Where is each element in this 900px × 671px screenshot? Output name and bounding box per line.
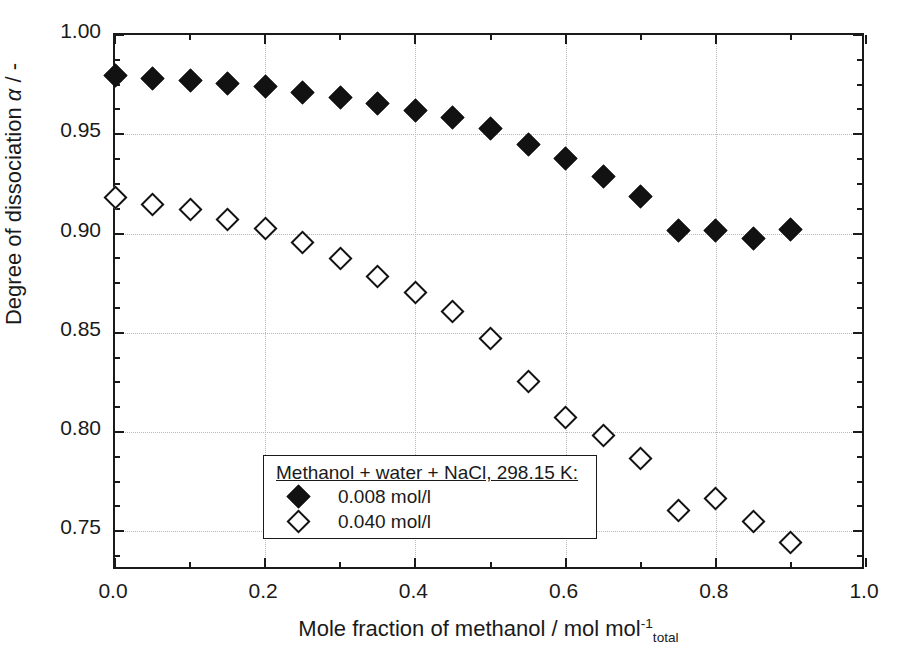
tick-mark: [857, 59, 862, 61]
data-point: [328, 246, 352, 270]
data-point: [178, 198, 202, 222]
tick-mark: [115, 332, 124, 334]
data-point: [478, 116, 502, 140]
tick-mark: [865, 558, 867, 567]
y-axis-title-suffix: / -: [1, 63, 26, 89]
data-point: [141, 67, 165, 91]
data-point: [366, 264, 390, 288]
gridline-horizontal: [115, 432, 862, 433]
tick-mark: [414, 35, 416, 44]
tick-mark: [857, 307, 862, 309]
tick-mark: [115, 555, 120, 557]
tick-mark: [857, 381, 862, 383]
data-point: [704, 487, 728, 511]
tick-mark: [715, 35, 717, 44]
tick-mark: [189, 35, 191, 40]
tick-mark: [115, 282, 120, 284]
tick-mark: [115, 530, 124, 532]
tick-mark: [115, 431, 124, 433]
tick-mark: [339, 562, 341, 567]
tick-mark: [853, 332, 862, 334]
tick-mark: [115, 406, 120, 408]
chart-figure: Methanol + water + NaCl, 298.15 K: 0.008…: [0, 0, 900, 671]
data-point: [366, 91, 390, 115]
tick-mark: [857, 555, 862, 557]
tick-mark: [865, 35, 867, 44]
legend-label-0: 0.008 mol/l: [320, 486, 431, 508]
x-axis-title-subscript: total: [653, 630, 679, 645]
data-point: [554, 146, 578, 170]
data-point: [666, 219, 690, 243]
data-point: [629, 185, 653, 209]
tick-mark: [857, 481, 862, 483]
tick-mark: [715, 558, 717, 567]
data-point: [779, 218, 803, 242]
tick-mark: [857, 208, 862, 210]
tick-mark: [264, 558, 266, 567]
legend-label-1: 0.040 mol/l: [320, 511, 431, 533]
tick-mark: [115, 357, 120, 359]
tick-mark: [114, 558, 116, 567]
x-axis-title: Mole fraction of methanol / mol mol-1tot…: [113, 616, 864, 645]
tick-mark: [853, 34, 862, 36]
tick-mark: [640, 562, 642, 567]
tick-mark: [115, 108, 120, 110]
tick-mark: [115, 59, 120, 61]
y-axis-title: Degree of dissociation α / -: [1, 0, 27, 404]
x-tick-label: 0.0: [73, 579, 153, 603]
legend-item-1: 0.040 mol/l: [276, 510, 596, 535]
data-point: [741, 509, 765, 533]
data-point: [216, 208, 240, 232]
tick-mark: [490, 562, 492, 567]
tick-mark: [640, 35, 642, 40]
data-point: [516, 132, 540, 156]
x-tick-label: 1.0: [824, 579, 900, 603]
tick-mark: [853, 431, 862, 433]
tick-mark: [115, 233, 124, 235]
tick-mark: [857, 282, 862, 284]
y-axis-title-symbol: α: [1, 89, 26, 102]
x-tick-label: 0.6: [524, 579, 604, 603]
legend: Methanol + water + NaCl, 298.15 K: 0.008…: [263, 455, 597, 539]
tick-mark: [115, 481, 120, 483]
data-point: [779, 530, 803, 554]
data-point: [441, 300, 465, 324]
x-axis-title-superscript: -1: [641, 616, 653, 631]
data-point: [403, 98, 427, 122]
tick-mark: [857, 108, 862, 110]
data-point: [291, 230, 315, 254]
y-axis-title-prefix: Degree of dissociation: [1, 101, 26, 325]
tick-mark: [115, 158, 120, 160]
tick-mark: [857, 183, 862, 185]
tick-mark: [857, 158, 862, 160]
tick-mark: [115, 456, 120, 458]
data-point: [403, 280, 427, 304]
x-tick-label: 0.4: [373, 579, 453, 603]
tick-mark: [857, 505, 862, 507]
tick-mark: [857, 406, 862, 408]
tick-mark: [790, 35, 792, 40]
legend-item-0: 0.008 mol/l: [276, 485, 596, 510]
tick-mark: [115, 257, 120, 259]
data-point: [591, 423, 615, 447]
legend-marker-open-diamond: [276, 510, 320, 535]
data-point: [253, 75, 277, 99]
tick-mark: [115, 133, 124, 135]
tick-mark: [264, 35, 266, 44]
tick-mark: [857, 257, 862, 259]
tick-mark: [857, 456, 862, 458]
tick-mark: [565, 35, 567, 44]
y-tick-label: 0.80: [11, 416, 101, 440]
data-point: [704, 219, 728, 243]
data-point: [629, 447, 653, 471]
tick-mark: [114, 35, 116, 44]
legend-title: Methanol + water + NaCl, 298.15 K:: [276, 461, 596, 485]
tick-mark: [189, 562, 191, 567]
data-point: [216, 72, 240, 96]
tick-mark: [115, 307, 120, 309]
data-point: [291, 81, 315, 105]
data-point: [554, 405, 578, 429]
data-point: [441, 105, 465, 129]
plot-area: Methanol + water + NaCl, 298.15 K: 0.008…: [113, 33, 864, 569]
y-tick-label: 0.75: [11, 515, 101, 539]
